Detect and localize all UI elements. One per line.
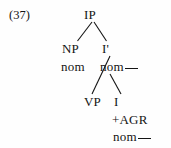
tree-feature-i-nom-text: nom — [113, 129, 137, 144]
tree-feature-i-blank — [138, 131, 151, 139]
branch-ip-to-ibar — [94, 22, 107, 41]
tree-feature-ibar-nom: nom — [100, 60, 138, 73]
tree-node-ip: IP — [84, 8, 96, 21]
tree-node-i-bar: I' — [102, 42, 109, 55]
tree-node-i: I — [114, 95, 119, 108]
tree-feature-ibar-nom-text: nom — [100, 59, 124, 74]
tree-node-vp: VP — [84, 95, 101, 108]
branch-ip-to-np — [78, 22, 93, 41]
tree-feature-np-nom: nom — [61, 60, 85, 73]
tree-feature-ibar-blank — [125, 61, 138, 69]
example-number-label: (37) — [9, 9, 30, 22]
tree-node-np: NP — [62, 42, 79, 55]
tree-feature-i-nom: nom — [113, 130, 151, 143]
syntax-tree-figure: (37) IP NP I' nom nom VP I +AGR nom — [0, 0, 171, 148]
tree-feature-i-agr: +AGR — [112, 113, 148, 126]
branch-ibar-to-i — [110, 74, 121, 94]
